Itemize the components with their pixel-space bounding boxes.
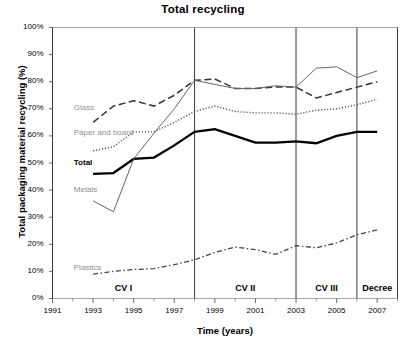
phase-label: CV I (84, 283, 164, 293)
x-tick-label: 2007 (355, 306, 399, 315)
phase-label: Decree (337, 283, 406, 293)
y-tick-label: 20% (4, 239, 44, 248)
plot-frame (53, 28, 398, 299)
x-tick-label: 2003 (274, 306, 318, 315)
y-tick-label: 80% (4, 76, 44, 85)
y-tick-label: 40% (4, 185, 44, 194)
phase-label: CV II (205, 283, 285, 293)
x-tick-label: 1995 (112, 306, 156, 315)
x-tick-label: 2005 (315, 306, 359, 315)
series-label-plastics: Plastics (74, 263, 102, 272)
x-tick-label: 1999 (193, 306, 237, 315)
x-tick-label: 1991 (31, 306, 75, 315)
x-tick-label: 1993 (71, 306, 115, 315)
series-line-paper-and-board (93, 99, 377, 150)
y-tick-label: 50% (4, 158, 44, 167)
y-tick-label: 10% (4, 266, 44, 275)
y-tick-label: 100% (4, 22, 44, 31)
series-label-glass: Glass (74, 103, 94, 112)
series-line-total (93, 129, 377, 174)
series-line-metals (93, 67, 377, 212)
x-tick-label: 2001 (233, 306, 277, 315)
recycling-line-chart: Total recycling Total packaging material… (0, 0, 406, 345)
x-tick-label: 1997 (152, 306, 196, 315)
y-tick-label: 60% (4, 130, 44, 139)
plot-canvas (0, 0, 406, 345)
y-tick-label: 0% (4, 293, 44, 302)
y-tick-label: 70% (4, 103, 44, 112)
series-label-total: Total (74, 158, 93, 167)
series-line-glass (93, 79, 377, 122)
series-label-paper-and-board: Paper and board (74, 128, 134, 137)
y-tick-label: 30% (4, 212, 44, 221)
series-label-metals: Metals (74, 185, 98, 194)
series-line-plastics (93, 230, 377, 274)
y-tick-label: 90% (4, 49, 44, 58)
